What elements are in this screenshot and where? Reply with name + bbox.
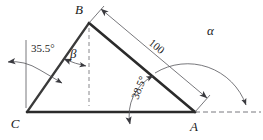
geometry-diagram-canvas: B C A 35.5° β 38.5° α 100 — [0, 0, 263, 140]
angle-arc-alpha — [155, 64, 246, 105]
dimension-extension-at-B — [89, 6, 104, 23]
dimension-line-100 — [101, 9, 207, 98]
angle-label-38-5: 38.5° — [129, 74, 149, 100]
angle-label-alpha: α — [207, 23, 215, 38]
dimension-extension-at-A — [195, 95, 210, 112]
vertex-label-C: C — [11, 116, 20, 131]
vertex-label-A: A — [189, 119, 198, 134]
vertex-label-B: B — [75, 2, 83, 17]
geometry-figure: B C A 35.5° β 38.5° α 100 — [0, 0, 263, 140]
angle-label-beta: β — [69, 46, 77, 61]
angle-arc-35-5-left — [8, 62, 40, 70]
edge-BA — [89, 23, 195, 112]
angle-label-35-5: 35.5° — [31, 42, 55, 54]
dimension-label-100: 100 — [147, 36, 168, 56]
angle-arc-35-5-right — [40, 70, 62, 83]
